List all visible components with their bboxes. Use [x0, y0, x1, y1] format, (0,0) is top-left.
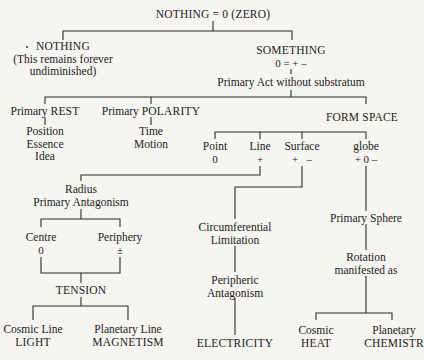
globe-node: globe + 0 – [353, 140, 379, 165]
root-node: NOTHING = 0 (ZERO) [156, 8, 271, 21]
antagonism-label: Antagonism [207, 287, 263, 300]
manifested-as-label: manifested as [335, 264, 398, 277]
light-label: LIGHT [3, 336, 62, 349]
point-symbol: 0 [203, 153, 227, 166]
periphery-label: Periphery [98, 231, 143, 244]
rest-item: Idea [26, 150, 64, 163]
root-title: NOTHING = 0 (ZERO) [156, 8, 271, 20]
rotation-node: Rotation manifested as [335, 251, 398, 276]
cosmic-line-label: Cosmic Line [3, 323, 62, 336]
cosmic-node: Cosmic HEAT [298, 324, 333, 349]
rotation-label: Rotation [335, 251, 398, 264]
primary-sphere-label: Primary Sphere [330, 212, 402, 224]
electricity-node: ELECTRICITY [197, 337, 273, 350]
planetary-line-label: Planetary Line [92, 323, 163, 336]
polarity-items: Time Motion [134, 125, 168, 150]
rest-item: Essence [26, 138, 64, 151]
polarity-title: POLARITY [142, 105, 200, 117]
centre-node: Centre 0 [26, 231, 57, 256]
primary-polarity-node: Primary POLARITY [102, 105, 200, 118]
peripheric-node: Peripheric Antagonism [207, 274, 263, 299]
surface-symbol: + – [284, 153, 319, 166]
something-node: SOMETHING 0 = + – [256, 44, 326, 69]
radius-label: Radius [33, 183, 129, 196]
peripheric-label: Peripheric [207, 274, 263, 287]
polarity-prefix: Primary [102, 105, 142, 117]
primary-act-node: Primary Act without substratum [217, 76, 364, 89]
globe-symbol: + 0 – [353, 153, 379, 166]
planetary-line-node: Planetary Line MAGNETISM [92, 323, 163, 348]
centre-label: Centre [26, 231, 57, 244]
electricity-label: ELECTRICITY [197, 337, 273, 349]
line-symbol: + [249, 153, 270, 166]
nothing-node: NOTHING (This remains forever undiminish… [13, 40, 113, 78]
tension-node: TENSION [56, 284, 107, 297]
primary-sphere-node: Primary Sphere [330, 212, 402, 225]
circumferential-label: Circumferential [199, 221, 272, 234]
circumferential-node: Circumferential Limitation [199, 221, 272, 246]
form-space-title: FORM SPACE [326, 111, 398, 123]
polarity-item: Time [134, 125, 168, 138]
rest-title: REST [51, 105, 80, 117]
globe-label: globe [353, 140, 379, 153]
rest-items: Position Essence Idea [26, 125, 64, 163]
point-label: Point [203, 140, 227, 153]
line-label: Line [249, 140, 270, 153]
centre-symbol: 0 [26, 244, 57, 257]
primary-rest-node: Primary REST [11, 105, 80, 118]
cosmic-label: Cosmic [298, 324, 333, 337]
polarity-item: Motion [134, 138, 168, 151]
periphery-symbol: ± [98, 244, 143, 257]
planetary-node: Planetary CHEMISTR [364, 324, 424, 349]
nothing-title: NOTHING [13, 40, 113, 53]
rest-item: Position [26, 125, 64, 138]
tension-label: TENSION [56, 284, 107, 296]
rest-prefix: Primary [11, 105, 51, 117]
periphery-node: Periphery ± [98, 231, 143, 256]
something-formula: 0 = + – [256, 57, 326, 70]
form-space-node: FORM SPACE [326, 111, 398, 124]
primary-antagonism-label: Primary Antagonism [33, 196, 129, 209]
point-node: Point 0 [203, 140, 227, 165]
nothing-note-line2: undiminished) [13, 65, 113, 78]
primary-act-label: Primary Act without substratum [217, 76, 364, 88]
radius-node: Radius Primary Antagonism [33, 183, 129, 208]
something-title: SOMETHING [256, 44, 326, 57]
limitation-label: Limitation [199, 234, 272, 247]
planetary-label: Planetary [364, 324, 424, 337]
cosmic-line-node: Cosmic Line LIGHT [3, 323, 62, 348]
heat-label: HEAT [298, 337, 333, 350]
chemistry-label: CHEMISTR [364, 337, 424, 350]
surface-node: Surface + – [284, 140, 319, 165]
nothing-note-line1: (This remains forever [13, 53, 113, 66]
line-node: Line + [249, 140, 270, 165]
surface-label: Surface [284, 140, 319, 153]
magnetism-label: MAGNETISM [92, 336, 163, 349]
